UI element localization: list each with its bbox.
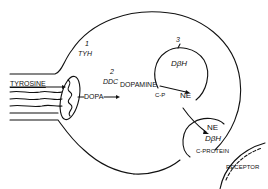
dopa-label: DOPA	[84, 93, 103, 100]
receptor-label: RECEPTOR	[226, 164, 259, 170]
terminal-bottom	[134, 160, 180, 174]
mitochondrion-crista	[68, 80, 72, 116]
tyrosine-label: TYROSINE	[10, 80, 46, 87]
vesicle-bottom-ne: NE	[207, 124, 218, 132]
dopamine-label: DOPAMINE	[120, 81, 157, 88]
step-3-number: 3	[176, 36, 180, 43]
axon-lower-wall	[10, 120, 134, 174]
diagram-canvas	[0, 0, 268, 189]
vesicle-bottom-cprotein: C-PROTEIN	[196, 148, 229, 154]
vesicle-bottom-enzyme: DβH	[205, 135, 221, 143]
step-1-number: 1	[85, 40, 89, 47]
step-2-enzyme: DDC	[103, 78, 118, 85]
step-2-number: 2	[110, 68, 114, 75]
vesicle-top-enzyme: DβH	[171, 60, 187, 68]
step-1-enzyme: TYH	[78, 50, 92, 57]
vesicle-top-cp: C-P	[155, 92, 165, 98]
vesicle-top-ne: NE	[180, 92, 191, 100]
